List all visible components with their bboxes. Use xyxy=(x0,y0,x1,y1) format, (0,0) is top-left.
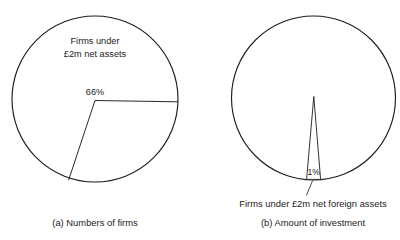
right-chart-caption: (b) Amount of investment xyxy=(261,217,366,228)
left-chart-caption: (a) Numbers of firms xyxy=(52,217,138,228)
right-percent-label: 1% xyxy=(307,167,320,177)
pie-chart-amount-of-investment: 1% Firms under £2m net foreign assets (b… xyxy=(232,16,396,228)
callout-leader-line xyxy=(306,181,312,196)
left-slice-label-line1: Firms under xyxy=(70,36,119,46)
right-callout-label: Firms under £2m net foreign assets xyxy=(239,198,387,209)
pie-chart-numbers-of-firms: Firms under £2m net assets 66% (a) Numbe… xyxy=(12,16,178,228)
left-percent-label: 66% xyxy=(86,87,104,97)
figure-container: Firms under £2m net assets 66% (a) Numbe… xyxy=(0,0,400,240)
charts-canvas: Firms under £2m net assets 66% (a) Numbe… xyxy=(0,0,400,240)
left-slice-label-line2: £2m net assets xyxy=(64,49,127,59)
